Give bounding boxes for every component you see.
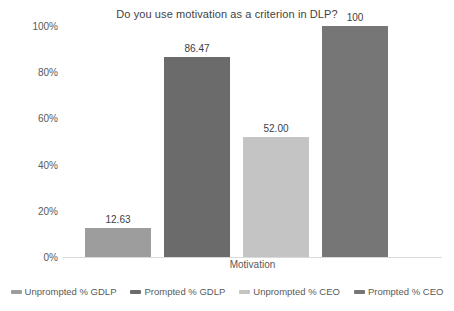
bar-value-label: 12.63 (105, 214, 130, 225)
y-axis-tick: 60% (0, 113, 58, 124)
legend-swatch-icon (354, 290, 365, 294)
y-axis-tick: 80% (0, 67, 58, 78)
bar-value-label: 52.00 (263, 123, 288, 134)
x-axis-baseline (63, 257, 442, 258)
bar[interactable] (85, 228, 151, 257)
legend-swatch-icon (239, 290, 250, 294)
bar[interactable] (164, 57, 230, 257)
plot-area: 12.6386.4752.00100 (63, 26, 442, 257)
bar-group: 12.6386.4752.00100 (63, 26, 442, 257)
legend-item[interactable]: Unprompted % CEO (239, 286, 340, 297)
legend-item[interactable]: Prompted % GDLP (130, 286, 225, 297)
bar[interactable] (322, 26, 388, 257)
chart-title: Do you use motivation as a criterion in … (0, 8, 454, 20)
bar-slot: 86.47 (164, 26, 230, 257)
y-axis-tick: 20% (0, 205, 58, 216)
legend-label: Prompted % GDLP (144, 286, 225, 297)
legend-label: Unprompted % CEO (253, 286, 340, 297)
bar-value-label: 100 (347, 12, 364, 23)
chart-legend: Unprompted % GDLPPrompted % GDLPUnprompt… (0, 286, 454, 297)
legend-item[interactable]: Unprompted % GDLP (11, 286, 117, 297)
bar-slot: 52.00 (243, 26, 309, 257)
legend-label: Prompted % CEO (368, 286, 444, 297)
bar-value-label: 86.47 (184, 43, 209, 54)
y-axis-tick: 40% (0, 159, 58, 170)
legend-item[interactable]: Prompted % CEO (354, 286, 444, 297)
y-axis-tick: 100% (0, 21, 58, 32)
bar[interactable] (243, 137, 309, 257)
y-axis-tick: 0% (0, 252, 58, 263)
legend-label: Unprompted % GDLP (25, 286, 117, 297)
bar-chart: Do you use motivation as a criterion in … (0, 0, 454, 311)
bar-slot: 100 (322, 26, 388, 257)
y-axis: 0%20%40%60%80%100% (0, 26, 58, 257)
legend-swatch-icon (130, 290, 141, 294)
legend-swatch-icon (11, 290, 22, 294)
bar-slot: 12.63 (85, 26, 151, 257)
x-axis-label: Motivation (63, 259, 442, 270)
